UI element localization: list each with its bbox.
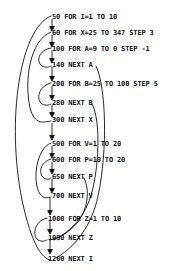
line-number: 100 — [52, 45, 64, 53]
line-statement: NEXT A — [68, 61, 92, 69]
code-line: 1000 FOR Z=1 TO 10 — [48, 215, 121, 223]
line-number: 140 — [52, 61, 64, 69]
line-statement: FOR V=1 TO 20 — [68, 140, 121, 148]
code-line: 60 FOR X=25 TO 347 STEP 3 — [52, 29, 154, 37]
line-statement: NEXT I — [68, 255, 92, 263]
line-number: 700 — [52, 192, 64, 200]
line-number: 300 — [52, 116, 64, 124]
line-number: 60 — [52, 29, 60, 37]
code-line: 200 FOR B=25 TO 100 STEP 5 — [52, 80, 158, 88]
line-statement: NEXT B — [68, 99, 92, 107]
line-number: 600 — [52, 156, 64, 164]
line-number: 1000 — [48, 215, 64, 223]
line-statement: NEXT Z — [68, 234, 92, 242]
code-line: 700 NEXT V — [52, 192, 93, 200]
line-number: 500 — [52, 140, 64, 148]
line-statement: FOR Z=1 TO 10 — [68, 215, 121, 223]
code-line: 600 FOR P=10 TO 20 — [52, 156, 125, 164]
line-statement: FOR B=25 TO 100 STEP 5 — [68, 80, 157, 88]
line-number: 50 — [52, 13, 60, 21]
line-number: 1090 — [48, 234, 64, 242]
code-line: 140 NEXT A — [52, 61, 93, 69]
line-statement: FOR P=10 TO 20 — [68, 156, 125, 164]
code-line: 500 FOR V=1 TO 20 — [52, 140, 121, 148]
line-statement: FOR X=25 TO 347 STEP 3 — [64, 29, 153, 37]
line-statement: NEXT P — [68, 173, 92, 181]
line-statement: NEXT X — [68, 116, 92, 124]
code-line: 280 NEXT B — [52, 99, 93, 107]
line-number: 1200 — [48, 255, 64, 263]
code-line: 1200 NEXT I — [48, 255, 93, 263]
diagram-canvas: 50 FOR I=1 TO 10 60 FOR X=25 TO 347 STEP… — [0, 0, 178, 271]
line-statement: FOR I=1 TO 10 — [64, 13, 117, 21]
code-line: 100 FOR A=9 TO 0 STEP -1 — [52, 45, 150, 53]
code-listing: 50 FOR I=1 TO 10 60 FOR X=25 TO 347 STEP… — [0, 0, 178, 271]
line-number: 650 — [52, 173, 64, 181]
code-line: 1090 NEXT Z — [48, 234, 93, 242]
code-line: 650 NEXT P — [52, 173, 93, 181]
code-line: 300 NEXT X — [52, 116, 93, 124]
line-number: 200 — [52, 80, 64, 88]
line-statement: NEXT V — [68, 192, 92, 200]
code-line: 50 FOR I=1 TO 10 — [52, 13, 117, 21]
line-number: 280 — [52, 99, 64, 107]
line-statement: FOR A=9 TO 0 STEP -1 — [68, 45, 149, 53]
